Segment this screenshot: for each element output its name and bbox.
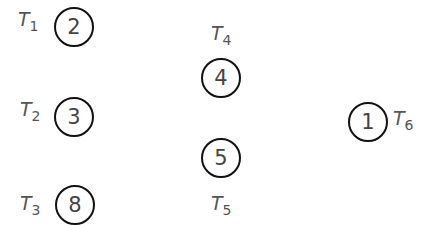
label-t4: T4 xyxy=(211,22,232,48)
label-t5: T5 xyxy=(211,192,232,218)
node-t5: 5 xyxy=(201,138,241,178)
node-t4: 4 xyxy=(201,58,241,98)
node-value: 2 xyxy=(67,15,80,39)
node-t6: 1 xyxy=(348,102,388,142)
node-value: 5 xyxy=(214,146,227,170)
node-value: 1 xyxy=(361,110,374,134)
label-t1: T1 xyxy=(18,8,39,34)
label-t6: T6 xyxy=(393,107,414,133)
node-value: 8 xyxy=(68,193,81,217)
node-value: 3 xyxy=(67,105,80,129)
node-t2: 3 xyxy=(54,97,94,137)
node-t3: 8 xyxy=(55,185,95,225)
label-t2: T2 xyxy=(20,98,41,124)
node-t1: 2 xyxy=(54,7,94,47)
label-t3: T3 xyxy=(20,192,41,218)
node-value: 4 xyxy=(214,66,227,90)
